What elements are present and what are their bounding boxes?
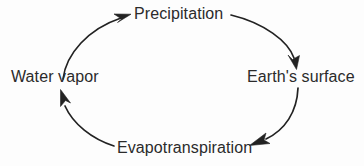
node-label-precipitation: Precipitation: [134, 5, 223, 23]
arrow-earths-surface-to-evapotranspiration: [250, 88, 299, 146]
node-label-water-vapor: Water vapor: [11, 68, 99, 86]
arrow-evapotranspiration-to-water-vapor: [61, 90, 115, 147]
water-cycle-diagram: Precipitation Earth's surface Evapotrans…: [0, 0, 364, 166]
arrowhead-up-right-icon: [114, 14, 131, 23]
node-label-evapotranspiration: Evapotranspiration: [117, 139, 252, 157]
arrowhead-up-icon: [61, 90, 71, 107]
node-label-earths-surface: Earth's surface: [247, 68, 355, 86]
arrow-precipitation-to-earths-surface: [231, 15, 300, 70]
